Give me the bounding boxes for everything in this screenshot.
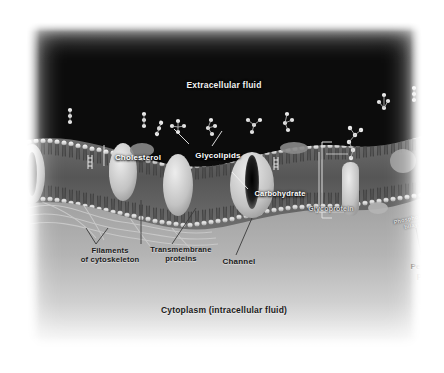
label-channel: Channel	[208, 257, 270, 266]
label-cytoskeleton-filaments: Filaments of cytoskeleton	[70, 247, 150, 265]
membrane-diagram-figure: Extracellular fluid Cholesterol Glycolip…	[0, 0, 444, 373]
illustration-plate: Extracellular fluid Cholesterol Glycolip…	[26, 22, 422, 352]
label-glycoprotein: Glycoprotein	[298, 205, 364, 213]
label-glycolipids: Glycolipids	[184, 151, 252, 160]
label-cytoplasm: Cytoplasm (intracellular fluid)	[26, 305, 422, 315]
label-cholesterol: Cholesterol	[103, 153, 173, 162]
label-extracellular-fluid: Extracellular fluid	[26, 80, 422, 90]
membrane-artwork	[26, 22, 422, 352]
label-carbohydrate: Carbohydrate	[245, 190, 315, 199]
label-peripheral-protein: Peripheral protein	[398, 262, 422, 281]
